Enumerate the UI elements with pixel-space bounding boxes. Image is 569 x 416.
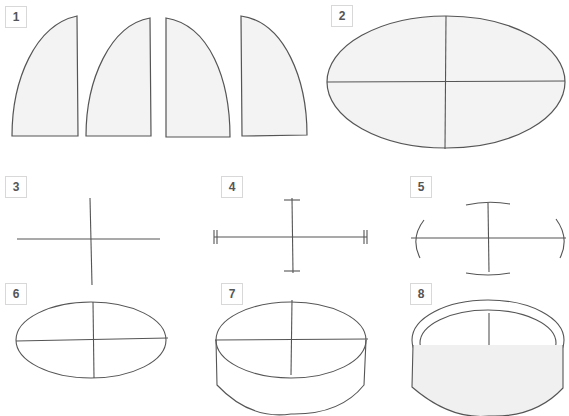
- step-label-4: 4: [221, 176, 243, 198]
- axis-v-3: [90, 198, 92, 285]
- dome-segment-3: [166, 18, 230, 137]
- drawing-canvas: [0, 0, 569, 416]
- step-label-7: 7: [221, 283, 243, 305]
- step-label-1: 1: [5, 6, 27, 28]
- step-label-8: 8: [410, 283, 432, 305]
- step-label-6: 6: [5, 283, 27, 305]
- step-label-3: 3: [5, 176, 27, 198]
- dome-segment-2: [86, 18, 151, 136]
- step-label-2: 2: [331, 5, 353, 27]
- dome-segment-4: [241, 16, 307, 136]
- dome-segment-1: [12, 16, 78, 136]
- step-label-5: 5: [410, 176, 432, 198]
- bowl-body-8: [412, 345, 563, 416]
